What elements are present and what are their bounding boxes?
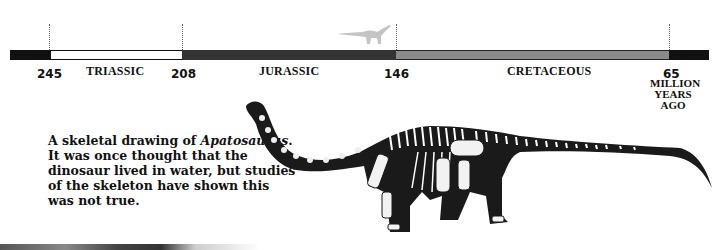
caption-lead: A skeletal drawing of [48, 133, 196, 148]
period-label-cretaceous: CRETACEOUS [507, 64, 591, 79]
boundary-tick-65 [669, 24, 670, 50]
timeline-bar-post-cretaceous [669, 50, 709, 60]
period-label-triassic: TRIASSIC [86, 64, 144, 79]
boundary-label-245: 245 [37, 67, 62, 81]
boundary-label-208: 208 [171, 67, 196, 81]
timeline-bar-jurassic [182, 50, 396, 60]
boundary-tick-146 [396, 24, 397, 50]
sauropod-silhouette-icon [335, 24, 395, 46]
geologic-timeline: 245 208 146 65 TRIASSIC JURASSIC CRETACE… [0, 0, 717, 90]
boundary-tick-208 [182, 24, 183, 50]
timeline-bar-triassic [50, 50, 184, 60]
timeline-bar-cretaceous [396, 50, 669, 60]
boundary-label-146: 146 [384, 67, 409, 81]
period-label-jurassic: JURASSIC [259, 64, 319, 79]
timeline-bar-pre-triassic [10, 50, 50, 60]
bottom-image-edge [0, 244, 260, 250]
boundary-tick-245 [49, 24, 50, 50]
apatosaurus-skeleton-illustration [240, 96, 715, 236]
